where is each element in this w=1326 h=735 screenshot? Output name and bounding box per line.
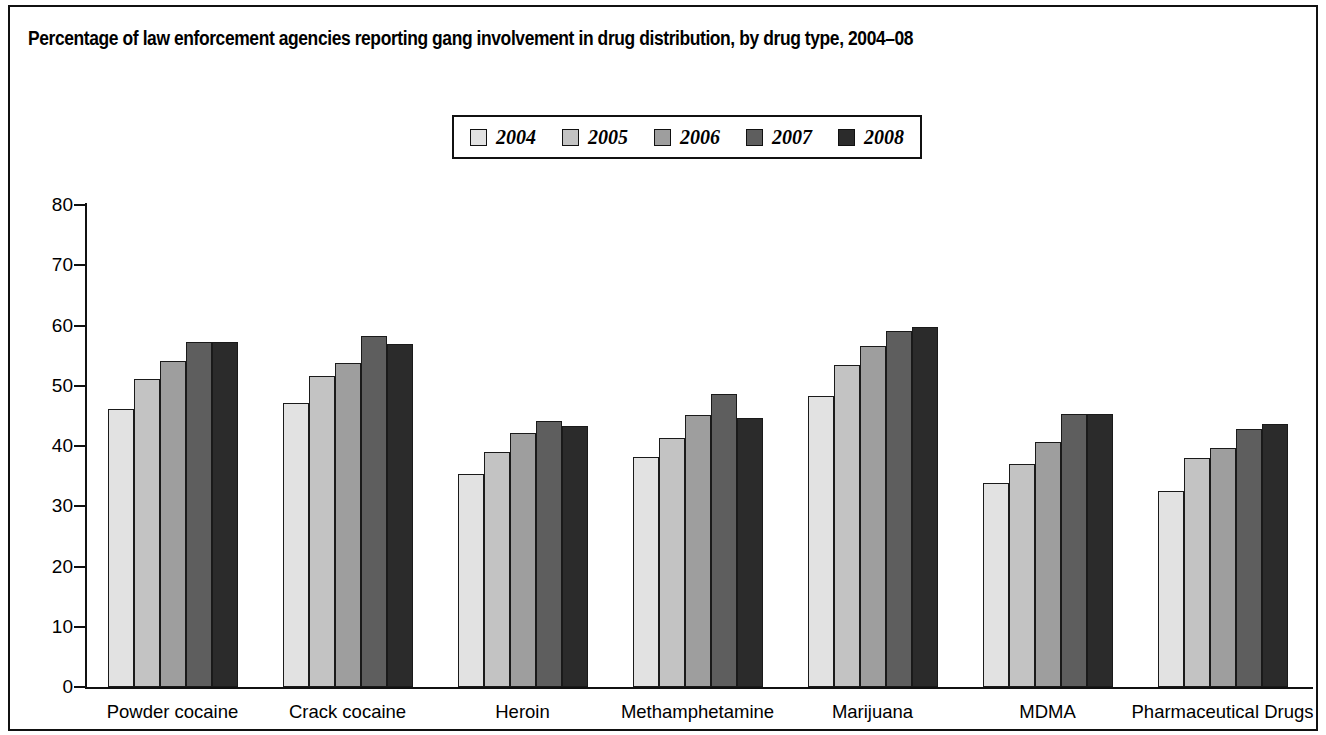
bar-heroin-2007: [536, 421, 562, 687]
bar-powder-cocaine-2006: [160, 361, 186, 687]
legend-label: 2005: [588, 126, 628, 149]
bar-group: Methamphetamine: [610, 205, 785, 687]
y-axis-tick-mark: [74, 204, 85, 206]
x-axis-line: [85, 687, 1313, 689]
bar-pharmaceutical-drugs-2007: [1236, 429, 1262, 687]
bar-methamphetamine-2008: [737, 418, 763, 687]
bar-group: Crack cocaine: [260, 205, 435, 687]
bar-pharmaceutical-drugs-2005: [1184, 458, 1210, 687]
bar-crack-cocaine-2007: [361, 336, 387, 687]
bar-pharmaceutical-drugs-2006: [1210, 448, 1236, 687]
bar-powder-cocaine-2007: [186, 342, 212, 687]
legend-swatch-icon-2005: [562, 129, 579, 146]
bar-methamphetamine-2007: [711, 394, 737, 687]
legend-item-2008: 2008: [838, 126, 904, 149]
bar-crack-cocaine-2005: [309, 376, 335, 687]
bar-marijuana-2008: [912, 327, 938, 687]
x-axis-category-label: Marijuana: [832, 701, 913, 723]
bar-group: MDMA: [960, 205, 1135, 687]
chart-legend: 20042005200620072008: [452, 115, 922, 159]
legend-label: 2006: [680, 126, 720, 149]
bar-methamphetamine-2005: [659, 438, 685, 687]
legend-swatch-icon-2004: [470, 129, 487, 146]
bar-heroin-2004: [458, 474, 484, 687]
bar-heroin-2005: [484, 452, 510, 687]
y-axis-tick-mark: [74, 385, 85, 387]
bar-group: Powder cocaine: [85, 205, 260, 687]
y-axis-tick-mark: [74, 505, 85, 507]
legend-label: 2007: [772, 126, 812, 149]
bar-marijuana-2004: [808, 396, 834, 687]
bar-marijuana-2005: [834, 365, 860, 687]
bar-heroin-2008: [562, 426, 588, 687]
bar-groups: Powder cocaineCrack cocaineHeroinMethamp…: [85, 205, 1310, 687]
legend-swatch-icon-2008: [838, 129, 855, 146]
legend-label: 2004: [496, 126, 536, 149]
x-axis-category-label: Methamphetamine: [621, 701, 774, 723]
y-axis-tick-mark: [74, 325, 85, 327]
y-axis-tick-mark: [74, 445, 85, 447]
y-axis-tick-mark: [74, 686, 85, 688]
bar-marijuana-2007: [886, 331, 912, 687]
y-axis-tick-mark: [74, 566, 85, 568]
plot-area: 01020304050607080 Powder cocaineCrack co…: [85, 205, 1310, 687]
legend-item-2004: 2004: [470, 126, 536, 149]
bar-marijuana-2006: [860, 346, 886, 687]
bar-mdma-2007: [1061, 414, 1087, 687]
bar-crack-cocaine-2006: [335, 363, 361, 687]
x-axis-category-label: MDMA: [1019, 701, 1076, 723]
bar-pharmaceutical-drugs-2004: [1158, 491, 1184, 687]
bar-powder-cocaine-2008: [212, 342, 238, 687]
bar-mdma-2008: [1087, 414, 1113, 687]
bar-group: Heroin: [435, 205, 610, 687]
legend-swatch-icon-2006: [654, 129, 671, 146]
bar-mdma-2006: [1035, 442, 1061, 687]
bar-crack-cocaine-2008: [387, 344, 413, 687]
legend-item-2006: 2006: [654, 126, 720, 149]
y-axis-tick-mark: [74, 264, 85, 266]
bar-group: Pharmaceutical Drugs: [1135, 205, 1310, 687]
bar-mdma-2005: [1009, 464, 1035, 687]
bar-heroin-2006: [510, 433, 536, 687]
bar-crack-cocaine-2004: [283, 403, 309, 687]
bar-pharmaceutical-drugs-2008: [1262, 424, 1288, 687]
x-axis-category-label: Heroin: [495, 701, 550, 723]
chart-title: Percentage of law enforcement agencies r…: [28, 27, 1156, 50]
bar-methamphetamine-2006: [685, 415, 711, 687]
x-axis-category-label: Powder cocaine: [107, 701, 239, 723]
x-axis-category-label: Crack cocaine: [289, 701, 406, 723]
legend-swatch-icon-2007: [746, 129, 763, 146]
bar-powder-cocaine-2005: [134, 379, 160, 687]
legend-label: 2008: [864, 126, 904, 149]
y-axis-tick-mark: [74, 626, 85, 628]
x-axis-category-label: Pharmaceutical Drugs: [1132, 701, 1314, 723]
legend-item-2007: 2007: [746, 126, 812, 149]
bar-powder-cocaine-2004: [108, 409, 134, 687]
bar-group: Marijuana: [785, 205, 960, 687]
chart-figure: Percentage of law enforcement agencies r…: [8, 5, 1318, 731]
bar-methamphetamine-2004: [633, 457, 659, 687]
bar-mdma-2004: [983, 483, 1009, 687]
legend-item-2005: 2005: [562, 126, 628, 149]
